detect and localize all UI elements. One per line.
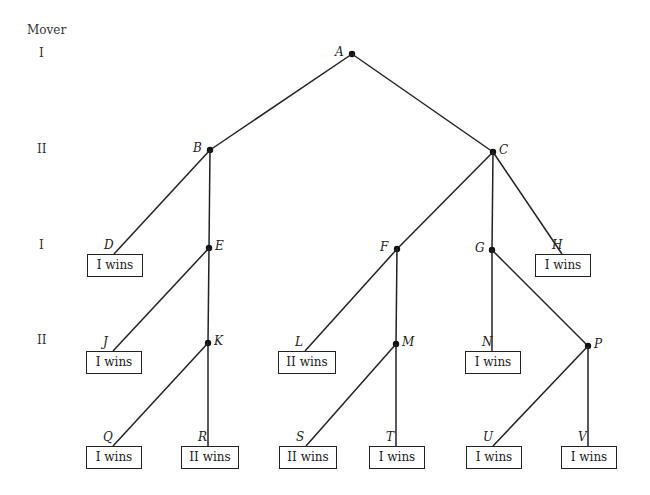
node-label-V: V	[578, 431, 587, 443]
node-label-P: P	[594, 338, 602, 350]
mover-level-0: I	[39, 46, 44, 60]
node-label-T: T	[386, 431, 394, 443]
game-tree-diagram: Mover I II I II ABCI winsDEFGI winsHI wi…	[0, 0, 650, 495]
outcome-box-J: I wins	[86, 351, 142, 374]
node-label-E: E	[215, 240, 224, 252]
node-label-Q: Q	[103, 431, 113, 443]
outcome-box-T: I wins	[369, 446, 425, 469]
node-label-B: B	[193, 142, 202, 154]
edge-F-M	[396, 249, 397, 344]
edge-B-D	[114, 150, 210, 254]
mover-level-1: II	[37, 142, 46, 156]
outcome-box-S: II wins	[279, 446, 337, 469]
mover-header: Mover	[27, 23, 66, 37]
node-label-J: J	[103, 336, 108, 348]
edge-E-K	[208, 248, 209, 343]
edge-B-E	[209, 150, 210, 248]
edge-C-G	[492, 152, 493, 250]
node-label-C: C	[499, 144, 508, 156]
node-label-G: G	[475, 242, 485, 254]
mover-level-3: II	[37, 333, 46, 347]
node-label-D: D	[104, 239, 114, 251]
node-label-U: U	[483, 431, 493, 443]
outcome-box-V: I wins	[561, 446, 617, 469]
node-label-A: A	[335, 46, 344, 58]
node-label-R: R	[198, 431, 207, 443]
edge-A-C	[352, 54, 493, 152]
node-label-M: M	[402, 336, 414, 348]
mover-level-2: I	[39, 238, 44, 252]
node-label-L: L	[295, 336, 303, 348]
node-label-H: H	[552, 239, 562, 251]
edge-C-F	[397, 152, 493, 249]
outcome-box-D: I wins	[87, 254, 143, 277]
outcome-box-R: II wins	[181, 446, 239, 469]
outcome-box-U: I wins	[466, 446, 522, 469]
outcome-box-Q: I wins	[86, 446, 142, 469]
node-label-F: F	[380, 241, 388, 253]
edge-F-L	[305, 249, 397, 351]
node-label-S: S	[296, 431, 304, 443]
outcome-box-N: I wins	[465, 351, 521, 374]
node-label-K: K	[214, 335, 223, 347]
outcome-box-H: I wins	[535, 254, 591, 277]
outcome-box-L: II wins	[278, 351, 336, 374]
node-label-N: N	[482, 336, 493, 348]
edge-A-B	[210, 54, 352, 150]
